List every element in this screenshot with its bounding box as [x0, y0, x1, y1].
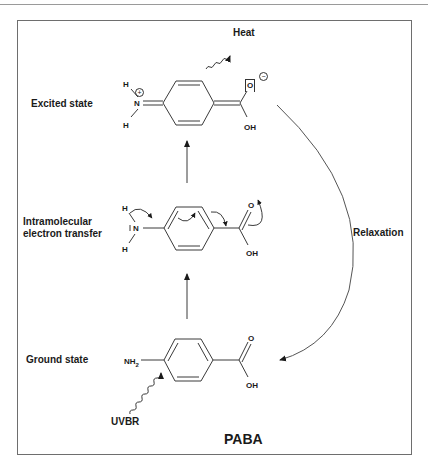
atom-nh: NH	[124, 357, 136, 366]
atom-o-minus: O	[245, 79, 255, 92]
uvbr-label: UVBR	[111, 416, 139, 428]
atom-n: N	[134, 98, 140, 110]
relaxation-arc	[277, 105, 353, 360]
intramolecular-label-line1: Intramolecular	[23, 216, 92, 228]
atom-h: H	[123, 79, 129, 91]
intramolecular-label-line2: electron transfer	[23, 228, 102, 240]
uvbr-wavy-arrow	[130, 373, 161, 414]
heat-label: Heat	[233, 27, 255, 39]
atom-oh: OH	[246, 380, 258, 392]
atom-o: O	[248, 200, 254, 212]
paba-title: PABA	[224, 431, 263, 447]
ground-state-label: Ground state	[26, 354, 88, 366]
charge-minus: −	[259, 72, 268, 81]
atom-o: O	[248, 333, 254, 345]
atom-h: H	[122, 203, 128, 215]
excited-state-molecule	[131, 81, 247, 125]
relaxation-label: Relaxation	[353, 227, 404, 239]
atom-nh2: NH2	[124, 356, 139, 371]
atom-n: N	[133, 223, 139, 235]
transfer-state-molecule	[129, 200, 262, 250]
atom-nh2-subscript: 2	[136, 362, 139, 368]
heat-wavy-arrow	[206, 56, 230, 69]
atom-h: H	[123, 120, 129, 132]
atom-oh: OH	[244, 122, 256, 134]
excited-state-label: Excited state	[31, 98, 93, 110]
atom-oh: OH	[246, 248, 258, 260]
atom-h: H	[122, 244, 128, 256]
charge-plus: +	[135, 88, 144, 97]
ground-state-molecule	[141, 339, 251, 381]
